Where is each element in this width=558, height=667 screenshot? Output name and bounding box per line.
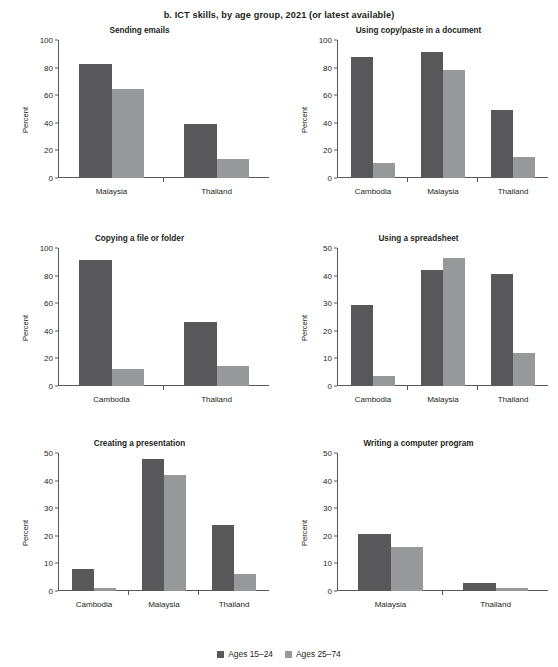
y-tick-label: 50 [44,449,53,458]
bar [184,124,217,179]
y-axis-ticks: 020406080100 [32,248,58,386]
y-tick-label: 60 [44,299,53,308]
x-tick-label: Thailand [199,600,269,609]
plot-area: Percent020406080100MalaysiaThailand [14,40,269,200]
bars-area [338,453,548,591]
bar [496,588,529,591]
y-tick-label: 0 [49,382,53,391]
y-tick-label: 40 [323,118,332,127]
y-tick-label: 10 [323,354,332,363]
chart-panel-grid: Sending emailsPercent020406080100Malaysi… [0,25,558,638]
bar [421,270,443,386]
x-axis-labels: CambodiaMalaysiaThailand [338,395,548,404]
bar-group [478,248,548,386]
y-tick-label: 0 [328,174,332,183]
x-tick-label: Cambodia [59,600,129,609]
y-tick-label: 20 [44,146,53,155]
bar [513,353,535,386]
x-tick-mark [442,591,443,595]
legend-item: Ages 15–24 [217,649,273,659]
bar [164,475,186,591]
chart-title: Creating a presentation [0,438,279,449]
x-axis-labels: CambodiaThailand [59,395,269,404]
x-tick-label: Malaysia [408,395,478,404]
x-tick-mark [163,386,164,390]
x-tick-mark [407,386,408,390]
y-axis-label: Percent [300,107,309,133]
bar-group [59,248,164,386]
bar [443,70,465,178]
bar [72,569,94,591]
x-tick-label: Thailand [443,600,548,609]
bar-group [338,453,443,591]
bars-area [338,40,548,178]
x-tick-label: Thailand [478,395,548,404]
x-axis-labels: MalaysiaThailand [338,600,548,609]
x-tick-mark [477,178,478,182]
y-tick-label: 40 [44,326,53,335]
bar [112,369,145,386]
y-tick-label: 40 [44,476,53,485]
bar-group [59,453,129,591]
bar-group [164,248,269,386]
legend-label: Ages 25–74 [296,649,341,659]
bar [351,57,373,178]
plot-area: Percent020406080100CambodiaMalaysiaThail… [293,40,548,200]
chart-legend: Ages 15–24Ages 25–74 [0,649,558,659]
y-axis-ticks: 01020304050 [311,248,337,386]
y-tick-label: 50 [323,244,332,253]
x-axis-labels: MalaysiaThailand [59,187,269,196]
bar-group [338,40,408,178]
chart-title: Using a spreadsheet [279,233,558,244]
x-tick-mark [128,591,129,595]
legend-swatch-icon [217,651,224,658]
chart-title: Writing a computer program [279,438,558,449]
bars-area [338,248,548,386]
bars-area [59,453,269,591]
bar-group [478,40,548,178]
y-tick-label: 20 [44,354,53,363]
bar [94,588,116,591]
y-tick-label: 60 [44,91,53,100]
y-tick-label: 40 [44,118,53,127]
bar-group [199,453,269,591]
bar [491,110,513,178]
x-axis-labels: CambodiaMalaysiaThailand [59,600,269,609]
x-tick-label: Cambodia [338,395,408,404]
bar [463,583,496,591]
plot-area: Percent020406080100CambodiaThailand [14,248,269,408]
y-axis-label: Percent [21,315,30,341]
y-tick-label: 40 [323,476,332,485]
x-tick-label: Cambodia [338,187,408,196]
chart-panel: Creating a presentationPercent0102030405… [0,438,279,638]
bar [142,459,164,591]
bar-group [164,40,269,178]
y-tick-label: 0 [328,382,332,391]
y-tick-label: 0 [49,587,53,596]
bar [79,260,112,386]
chart-title: Using copy/paste in a document [279,25,558,36]
y-axis-label: Percent [21,107,30,133]
legend-label: Ages 15–24 [228,649,273,659]
y-tick-label: 50 [323,449,332,458]
plot-area: Percent01020304050CambodiaMalaysiaThaila… [14,453,269,613]
y-axis-label: Percent [21,520,30,546]
bar-group [338,248,408,386]
y-axis-label: Percent [300,520,309,546]
x-tick-label: Thailand [478,187,548,196]
y-tick-label: 20 [323,146,332,155]
x-tick-label: Malaysia [59,187,164,196]
chart-panel: Using a spreadsheetPercent01020304050Cam… [279,233,558,438]
plot-area: Percent01020304050CambodiaMalaysiaThaila… [293,248,548,408]
y-tick-label: 100 [40,36,53,45]
x-tick-mark [198,591,199,595]
bar [513,157,535,178]
bar [491,274,513,386]
chart-panel: Sending emailsPercent020406080100Malaysi… [0,25,279,233]
chart-panel: Writing a computer programPercent0102030… [279,438,558,638]
y-axis-ticks: 020406080100 [311,40,337,178]
bars-area [59,248,269,386]
chart-title: Copying a file or folder [0,233,279,244]
y-tick-label: 10 [323,559,332,568]
chart-panel: Copying a file or folderPercent020406080… [0,233,279,438]
